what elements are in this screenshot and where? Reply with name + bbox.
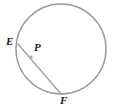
geometry-figure: E P F: [0, 0, 114, 111]
circle-outline: [16, 4, 106, 94]
center-point-p-marker: [30, 56, 33, 59]
point-label-f: F: [60, 95, 67, 106]
point-label-e: E: [6, 36, 13, 47]
point-label-p: P: [34, 42, 41, 53]
circle-diagram-canvas: [0, 0, 114, 111]
